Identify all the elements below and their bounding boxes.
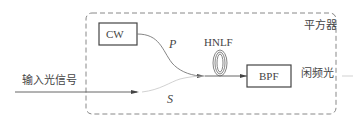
input-label: 输入光信号: [22, 75, 77, 86]
container-label: 平方器: [304, 20, 337, 31]
signal-path: [142, 76, 205, 92]
bpf-arrowhead: [240, 74, 247, 78]
hnlf-label: HNLF: [204, 37, 233, 48]
signal-label: S: [167, 93, 173, 105]
diagram-canvas: [0, 0, 353, 124]
cw-label: CW: [106, 29, 124, 40]
bpf-label: BPF: [259, 71, 279, 82]
pump-label: P: [169, 38, 176, 50]
hnlf-coil-icon: [213, 50, 227, 76]
output-label: 闲频光: [301, 68, 334, 79]
input-arrowhead: [131, 90, 139, 94]
